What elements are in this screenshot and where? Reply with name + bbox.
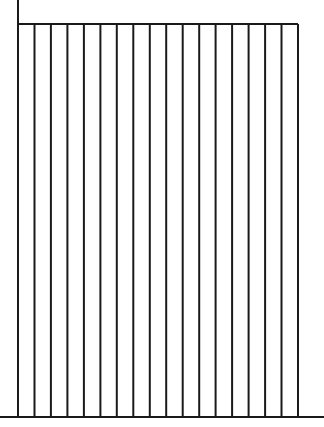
striped-rectangle-diagram bbox=[0, 0, 324, 427]
vertical-stripe-lines bbox=[18, 24, 298, 417]
